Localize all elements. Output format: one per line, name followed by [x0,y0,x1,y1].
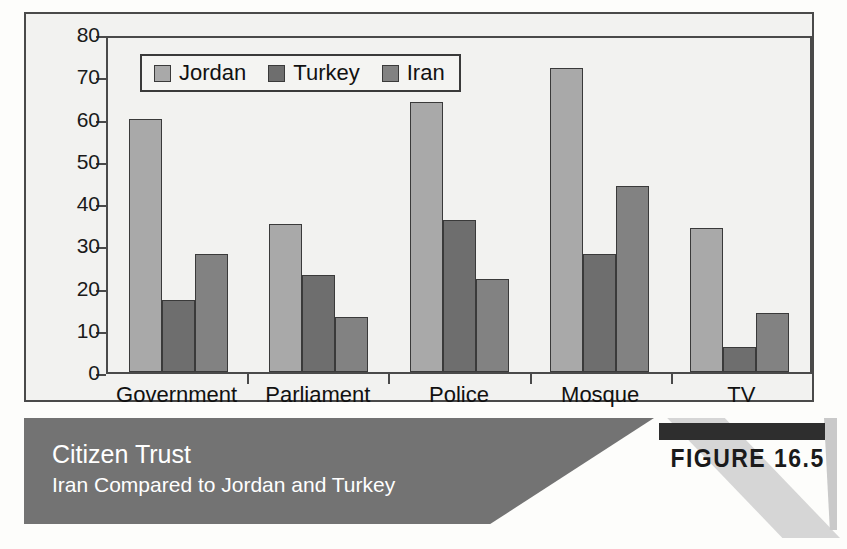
legend-swatch-iran-icon [382,65,399,82]
chart-legend: Jordan Turkey Iran [140,54,461,92]
bar-jordan-tv [690,228,723,372]
bar-turkey-mosque [583,254,616,372]
x-axis-label-police: Police [388,382,529,408]
legend-swatch-turkey-icon [268,65,285,82]
bar-turkey-parliament [302,275,335,372]
figure-root: 01020304050607080 Jordan Turkey Iran [0,0,847,549]
chart-plot-area: 01020304050607080 Jordan Turkey Iran [106,36,812,374]
bar-iran-tv [756,313,789,372]
y-axis-tick-label: 70 [77,65,100,89]
bar-slot [690,36,723,372]
bar-iran-government [195,254,228,372]
banner-edge-accent [824,418,837,530]
y-axis-tick-label: 80 [77,23,100,47]
legend-label-iran: Iran [407,61,445,85]
legend-label-jordan: Jordan [179,61,246,85]
bar-iran-parliament [335,317,368,372]
bar-slot [756,36,789,372]
figure-badge-bar [659,423,825,440]
bar-iran-mosque [616,186,649,372]
y-axis-tick-label: 30 [77,234,100,258]
y-axis-tick-label: 60 [77,108,100,132]
legend-label-turkey: Turkey [293,61,359,85]
bar-jordan-parliament [269,224,302,372]
caption-text-block: Citizen Trust Iran Compared to Jordan an… [52,438,395,500]
x-axis-label-tv: TV [671,382,812,408]
bar-jordan-government [129,119,162,373]
x-axis-line [106,372,812,374]
bar-slot [616,36,649,372]
y-axis-tick-label: 10 [77,319,100,343]
caption-subtitle: Iran Compared to Jordan and Turkey [52,470,395,500]
y-axis-tick-label: 20 [77,277,100,301]
bar-turkey-tv [723,347,756,372]
y-axis-tick-label: 40 [77,192,100,216]
legend-item-turkey: Turkey [268,61,359,85]
x-axis-label-mosque: Mosque [530,382,671,408]
bar-slot [583,36,616,372]
bar-slot [476,36,509,372]
bar-group-mosque [529,36,669,372]
y-axis-tick-label: 0 [88,361,100,385]
bar-turkey-government [162,300,195,372]
x-axis-category-labels: GovernmentParliamentPoliceMosqueTV [106,382,812,408]
bar-turkey-police [443,220,476,372]
figure-badge: FIGURE 16.5 [657,423,825,473]
bar-slot [723,36,756,372]
bar-jordan-police [410,102,443,372]
bar-jordan-mosque [550,68,583,372]
legend-item-jordan: Jordan [154,61,246,85]
legend-item-iran: Iran [382,61,445,85]
caption-title: Citizen Trust [52,438,395,470]
bar-slot [550,36,583,372]
plot-frame: 01020304050607080 Jordan Turkey Iran [24,12,814,402]
figure-badge-label: FIGURE 16.5 [671,444,825,473]
x-axis-label-government: Government [106,382,247,408]
bar-iran-police [476,279,509,372]
bar-group-tv [670,36,810,372]
legend-swatch-jordan-icon [154,65,171,82]
plot-right-rule [810,36,812,374]
x-axis-label-parliament: Parliament [247,382,388,408]
y-axis-tick-label: 50 [77,150,100,174]
